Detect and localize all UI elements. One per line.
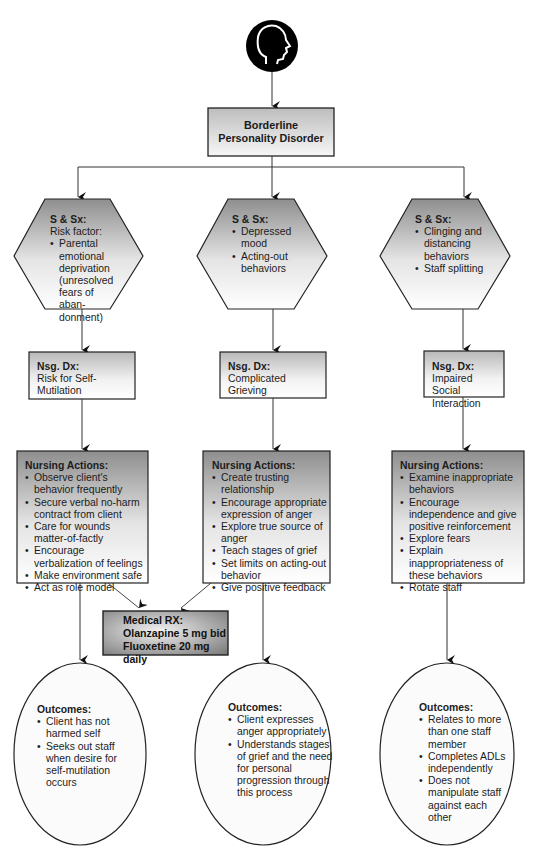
outcome-item: Understands stages of grief and the need… [228,739,338,800]
diagnosis-label: Risk for Self-Mutilation [37,373,133,397]
actions-text-3: Nursing Actions: Examine inappropriate b… [400,460,524,594]
outcome-item: Seeks out staff when desire for self-mut… [37,741,129,790]
diagnosis-header: Nsg. Dx: [228,361,324,373]
diagnosis-text-3: Nsg. Dx: Impaired Social Interaction [432,361,502,410]
diagnosis-label: Complicated Grieving [228,373,324,397]
signs-text-3: S & Sx: Clinging and distancing behavior… [415,214,495,275]
action-item: Encourage verbalization of feelings [25,545,145,569]
action-item: Explore fears [400,533,524,545]
action-item: Encourage independence and give positive… [400,497,524,534]
signs-item: Clinging and distancing behaviors [415,226,495,263]
signs-item: Parental emotional deprivation (unresolv… [50,238,122,323]
action-item: Explore true source of anger [212,521,340,545]
outcome-item: Client has not harmed self [37,716,129,740]
actions-header: Nursing Actions: [400,460,524,472]
actions-text-2: Nursing Actions: Create trusting relatio… [212,460,340,594]
signs-header: S & Sx: [232,214,312,226]
diagnosis-text-2: Nsg. Dx: Complicated Grieving [228,361,324,398]
signs-intro: Risk factor: [50,226,122,238]
signs-header: S & Sx: [415,214,495,226]
head-profile-icon [246,20,298,72]
title-line-1: Borderline [208,119,334,132]
outcome-item: Does not manipulate staff against each o… [419,775,511,824]
action-item: Create trusting relationship [212,472,340,496]
action-item: Encourage appropriate expression of ange… [212,497,340,521]
outcome-item: Relates to more than one staff member [419,714,511,751]
action-item: Secure verbal no-harm contract from clie… [25,497,145,521]
outcomes-text-1: Outcomes: Client has not harmed self See… [37,704,129,789]
actions-header: Nursing Actions: [212,460,340,472]
signs-item: Acting-out behaviors [232,251,312,275]
outcomes-header: Outcomes: [228,702,338,714]
signs-text-2: S & Sx: Depressed mood Acting-out behavi… [232,214,312,275]
signs-item: Staff splitting [415,263,495,275]
signs-text-1: S & Sx: Risk factor: Parental emotional … [50,214,122,324]
main-diagnosis-title: Borderline Personality Disorder [208,119,334,145]
outcomes-text-3: Outcomes: Relates to more than one staff… [419,702,511,824]
action-item: Explain inappropriateness of these behav… [400,545,524,582]
rx-header: Medical RX: [123,614,227,627]
outcome-item: Client expresses anger appropriately [228,714,338,738]
actions-text-1: Nursing Actions: Observe client's behavi… [25,460,145,594]
outcomes-header: Outcomes: [419,702,511,714]
action-item: Make environment safe [25,570,145,582]
action-item: Care for wounds matter-of-factly [25,521,145,545]
rx-line: Fluoxetine 20 mg daily [123,640,227,666]
signs-header: S & Sx: [50,214,122,226]
action-item: Observe client's behavior frequently [25,472,145,496]
rx-line: Olanzapine 5 mg bid [123,627,227,640]
outcomes-header: Outcomes: [37,704,129,716]
action-item: Act as role model [25,582,145,594]
diagnosis-header: Nsg. Dx: [37,361,133,373]
actions-header: Nursing Actions: [25,460,145,472]
title-line-2: Personality Disorder [208,132,334,145]
diagnosis-label: Impaired Social Interaction [432,373,502,410]
signs-item: Depressed mood [232,226,312,250]
care-plan-diagram: Borderline Personality Disorder S & Sx: … [0,0,544,849]
action-item: Teach stages of grief [212,545,340,557]
medical-rx-text: Medical RX: Olanzapine 5 mg bid Fluoxeti… [123,614,227,666]
outcomes-text-2: Outcomes: Client expresses anger appropr… [228,702,338,800]
outcome-item: Completes ADLs independently [419,751,511,775]
diagnosis-text-1: Nsg. Dx: Risk for Self-Mutilation [37,361,133,398]
action-item: Give positive feedback [212,582,340,594]
action-item: Examine inappropriate behaviors [400,472,524,496]
action-item: Set limits on acting-out behavior [212,558,340,582]
action-item: Rotate staff [400,582,524,594]
diagnosis-header: Nsg. Dx: [432,361,502,373]
